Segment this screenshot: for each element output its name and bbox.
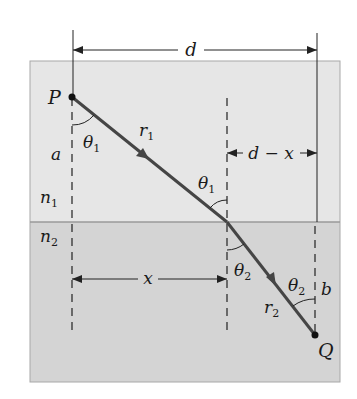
refraction-diagram: d d − x x P Q θ1 θ1 θ2 θ2 r1 r2 a b n1 n…	[0, 0, 357, 399]
point-P	[69, 94, 76, 101]
medium-2-region	[30, 222, 340, 382]
b-label: b	[321, 279, 332, 299]
point-Q-label: Q	[318, 339, 334, 361]
d-label: d	[185, 39, 197, 60]
a-label: a	[51, 144, 61, 164]
d-minus-x-label: d − x	[248, 143, 294, 163]
point-P-label: P	[47, 86, 62, 108]
x-label: x	[143, 268, 153, 288]
medium-1-region	[30, 61, 340, 222]
point-Q	[312, 332, 319, 339]
